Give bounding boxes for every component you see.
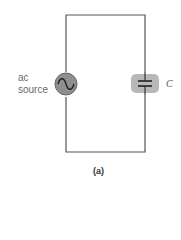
figure-label: (a) <box>93 166 104 176</box>
source-label-line1: ac <box>18 72 29 83</box>
source-label-line2: source <box>18 84 48 95</box>
capacitor-icon <box>131 72 159 95</box>
ac-source-icon <box>55 73 77 95</box>
capacitor-label: C <box>166 78 173 89</box>
